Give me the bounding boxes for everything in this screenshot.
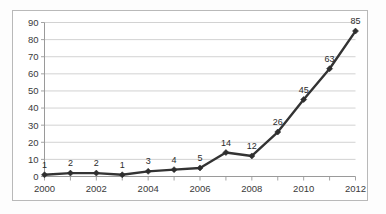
x-axis-tick-labels: 2000200220042006200820102012 xyxy=(34,183,366,194)
data-point-label: 5 xyxy=(197,153,202,163)
data-point-label: 45 xyxy=(299,85,309,95)
x-axis-tick-label: 2008 xyxy=(241,183,262,194)
data-point-label: 2 xyxy=(68,158,73,168)
data-point-marker xyxy=(67,170,73,176)
data-point-marker xyxy=(93,170,99,176)
data-point-marker xyxy=(145,168,151,174)
y-axis-tick-label: 90 xyxy=(28,17,39,28)
x-axis-tick-label: 2004 xyxy=(138,183,159,194)
data-point-label: 26 xyxy=(273,117,283,127)
x-axis-tick-label: 2010 xyxy=(293,183,314,194)
y-axis-tick-label: 60 xyxy=(28,68,39,79)
data-point-marker xyxy=(171,167,177,173)
x-axis-tick-label: 2006 xyxy=(189,183,210,194)
x-axis-tick-label: 2002 xyxy=(86,183,107,194)
data-point-label: 3 xyxy=(146,156,151,166)
y-axis-tick-labels: 0102030405060708090 xyxy=(28,17,39,182)
y-axis-tick-label: 30 xyxy=(28,120,39,131)
y-axis-tick-label: 40 xyxy=(28,102,39,113)
data-point-label: 4 xyxy=(172,155,177,165)
x-axis-tick-label: 2000 xyxy=(34,183,55,194)
data-point-label: 1 xyxy=(120,160,125,170)
data-point-labels: 1221345141226456385 xyxy=(42,16,361,170)
gridlines-group xyxy=(45,23,356,160)
line-chart-plot: 0102030405060708090 20002002200420062008… xyxy=(0,0,386,214)
y-axis-tick-label: 0 xyxy=(33,171,38,182)
data-point-label: 1 xyxy=(42,160,47,170)
y-axis-tick-label: 70 xyxy=(28,51,39,62)
y-axis-tick-label: 50 xyxy=(28,85,39,96)
data-point-label: 14 xyxy=(221,138,231,148)
data-point-label: 85 xyxy=(350,16,360,26)
y-axis-tick-label: 80 xyxy=(28,34,39,45)
x-axis-tick-marks xyxy=(45,177,356,181)
data-point-label: 12 xyxy=(247,141,257,151)
y-axis-tick-label: 20 xyxy=(28,137,39,148)
y-axis-tick-label: 10 xyxy=(28,154,39,165)
chart-figure: 0102030405060708090 20002002200420062008… xyxy=(0,0,386,214)
x-axis-tick-label: 2012 xyxy=(345,183,366,194)
data-point-label: 2 xyxy=(94,158,99,168)
data-point-label: 63 xyxy=(325,54,335,64)
